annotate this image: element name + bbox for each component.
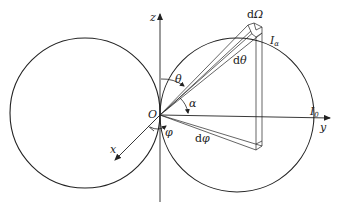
- d-theta-label: dθ: [233, 54, 247, 67]
- y-axis: [160, 115, 330, 118]
- d-phi-label: dφ: [195, 132, 210, 145]
- dphi-wedge: [160, 115, 262, 150]
- x-axis: [115, 115, 160, 160]
- y-axis-label: y: [319, 121, 327, 134]
- d-omega-label: dΩ: [247, 8, 263, 21]
- alpha-arc: [180, 98, 188, 113]
- radiation-diagram: z y x O θ α φ dΩ dθ dφ Iα I0: [0, 0, 337, 210]
- alpha-label: α: [189, 97, 197, 110]
- i-zero-label: I0: [309, 105, 319, 119]
- left-lobe-circle: [10, 38, 160, 188]
- phi-label: φ: [165, 126, 173, 139]
- z-axis-label: z: [149, 11, 156, 24]
- i-alpha-label: Iα: [269, 34, 279, 48]
- x-axis-label: x: [110, 143, 117, 156]
- origin-label: O: [148, 108, 157, 121]
- theta-label: θ: [175, 73, 182, 86]
